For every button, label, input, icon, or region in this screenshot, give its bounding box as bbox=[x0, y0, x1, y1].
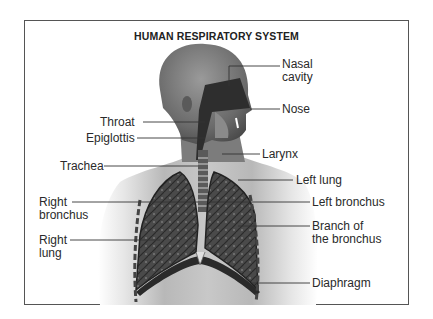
label-left-lung: Left lung bbox=[296, 174, 342, 187]
label-right-bronchus-line2: bronchus bbox=[39, 209, 88, 222]
label-right-lung-line2: lung bbox=[39, 247, 67, 260]
label-nasal-cavity: Nasal cavity bbox=[282, 58, 313, 84]
label-left-bronchus: Left bronchus bbox=[312, 196, 385, 209]
label-throat: Throat bbox=[100, 116, 135, 129]
label-diaphragm: Diaphragm bbox=[312, 277, 371, 290]
label-trachea: Trachea bbox=[60, 160, 104, 173]
label-right-lung: Right lung bbox=[39, 234, 67, 260]
label-nasal-cavity-line2: cavity bbox=[282, 71, 313, 84]
label-larynx: Larynx bbox=[262, 148, 298, 161]
label-epiglottis: Epiglottis bbox=[86, 132, 135, 145]
trachea-shape bbox=[198, 150, 208, 212]
label-nose: Nose bbox=[282, 103, 310, 116]
label-branch-line2: the bronchus bbox=[312, 233, 381, 246]
label-right-bronchus: Right bronchus bbox=[39, 196, 88, 222]
ear bbox=[182, 96, 192, 112]
label-branch-of-bronchus: Branch of the bronchus bbox=[312, 220, 381, 246]
